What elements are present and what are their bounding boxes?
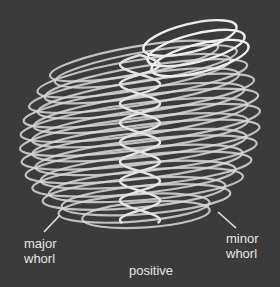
label-minor-line2: whorl [226,246,259,261]
label-major-whorl: major whorl [24,236,57,266]
supercoil-diagram: major whorl minor whorl positive [0,0,280,287]
label-major-line2: whorl [24,251,57,266]
major-whorl-coils [18,13,262,232]
label-minor-whorl: minor whorl [226,231,259,261]
major-leader-line [44,215,60,232]
caption-positive: positive [129,263,173,278]
label-minor-line1: minor [226,231,259,246]
label-major-line1: major [24,236,57,251]
minor-leader-line [218,212,236,228]
